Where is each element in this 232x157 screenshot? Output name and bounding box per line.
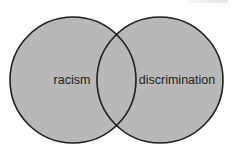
label-racism: racism: [54, 73, 91, 87]
label-discrimination: discrimination: [139, 73, 215, 87]
venn-diagram: racism discrimination: [0, 0, 232, 157]
cropped-text-artifact: [188, 0, 228, 3]
